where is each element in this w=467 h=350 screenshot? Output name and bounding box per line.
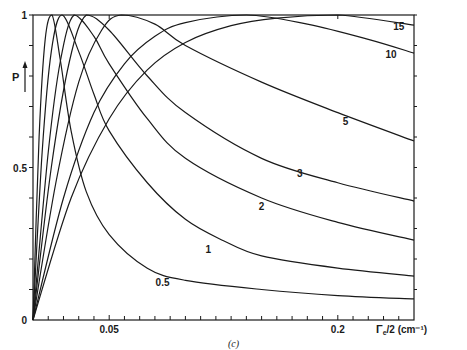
curve-5	[33, 15, 414, 320]
curve-label: 10	[386, 49, 398, 60]
curve-1	[33, 15, 414, 320]
curve-label: 2	[259, 201, 265, 212]
axes: 0.050.200.51	[13, 10, 417, 335]
curve-10	[33, 15, 414, 320]
curve-3	[33, 15, 414, 320]
x-axis-label: Γe/2 (cm⁻¹)	[376, 323, 427, 336]
curve-label: 15	[393, 21, 405, 32]
x-tick-label: 0.2	[331, 324, 345, 335]
x-axis-unit: /2 (cm⁻¹)	[387, 324, 428, 335]
curve-label: 5	[343, 116, 349, 127]
curve-2	[33, 15, 414, 320]
x-tick-label: 0.05	[99, 324, 119, 335]
y-tick-label: 0	[21, 315, 27, 326]
curves	[33, 15, 414, 320]
y-axis-arrow-icon	[23, 61, 28, 92]
y-tick-label: 0.5	[13, 163, 27, 174]
y-axis-label: P	[12, 71, 19, 83]
curve-label: 0.5	[156, 277, 170, 288]
chart: 0.050.200.51 0.512351015 P Γe/2 (cm⁻¹) (…	[0, 0, 467, 350]
curve-0-5	[33, 15, 414, 320]
figure-caption: (c)	[228, 338, 240, 350]
y-tick-label: 1	[21, 10, 27, 21]
curve-15	[33, 15, 414, 320]
curve-labels: 0.512351015	[156, 21, 405, 288]
plot-frame	[33, 15, 414, 320]
curve-label: 1	[205, 244, 211, 255]
curve-label: 3	[297, 168, 303, 179]
plot-area: 0.050.200.51 0.512351015 P Γe/2 (cm⁻¹) (…	[0, 0, 467, 350]
